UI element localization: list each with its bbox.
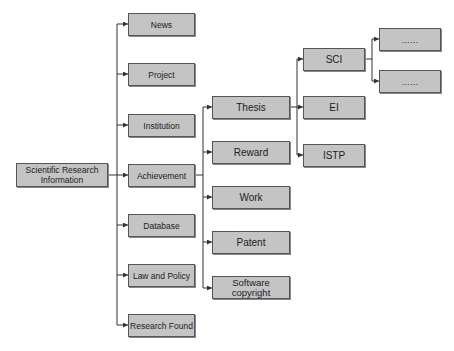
- node-sci: SCI: [303, 48, 365, 71]
- node-achievement: Achievement: [128, 164, 195, 187]
- node-work: Work: [212, 186, 290, 209]
- node-institution: Institution: [128, 114, 195, 137]
- node-label: News: [151, 20, 172, 30]
- node-label: Work: [239, 193, 262, 203]
- node-sci-more-1: ……: [379, 28, 441, 51]
- node-research-found: Research Found: [128, 314, 195, 337]
- node-reward: Reward: [212, 141, 290, 164]
- node-label: ISTP: [323, 151, 345, 161]
- node-label: Scientific Research Information: [17, 165, 107, 185]
- node-label: ……: [402, 35, 419, 45]
- node-label: Achievement: [137, 171, 186, 181]
- node-news: News: [128, 13, 195, 36]
- node-label: Patent: [237, 238, 266, 248]
- node-patent: Patent: [212, 231, 290, 254]
- node-label: Database: [143, 221, 179, 231]
- node-label: Reward: [234, 148, 268, 158]
- node-label: Software copyright: [213, 278, 289, 298]
- node-label: Research Found: [130, 321, 193, 331]
- node-label: Law and Policy: [133, 271, 190, 281]
- node-law-and-policy: Law and Policy: [128, 264, 195, 287]
- node-thesis: Thesis: [212, 96, 290, 119]
- node-root: Scientific Research Information: [16, 163, 108, 187]
- node-istp: ISTP: [303, 144, 365, 167]
- node-label: ……: [402, 77, 419, 87]
- node-label: Thesis: [236, 103, 265, 113]
- node-ei: EI: [303, 96, 365, 119]
- node-project: Project: [128, 63, 195, 86]
- node-label: SCI: [326, 55, 343, 65]
- node-label: Institution: [143, 121, 179, 131]
- node-software-copyright: Software copyright: [212, 276, 290, 299]
- node-sci-more-2: ……: [379, 70, 441, 93]
- node-label: Project: [148, 70, 174, 80]
- node-label: EI: [329, 103, 338, 113]
- node-database: Database: [128, 214, 195, 237]
